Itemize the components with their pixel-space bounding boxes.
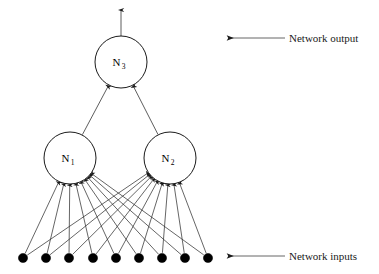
neuron-subscript-n3: 3	[122, 62, 126, 71]
neuron-subscript-n2: 2	[171, 158, 175, 167]
connection-input-1-to-N2	[27, 173, 147, 255]
neuron-label-n1: N	[62, 152, 70, 164]
neuron-group: N3N1N2	[44, 36, 196, 184]
connection-input-6-to-N2	[141, 184, 162, 253]
input-node-6	[134, 253, 143, 262]
neuron-subscript-n1: 1	[71, 158, 75, 167]
neuron-n1: N1	[44, 132, 96, 184]
input-node-1	[18, 253, 27, 262]
input-node-9	[203, 253, 212, 262]
neural-network-diagram: N3N1N2 Network outputNetwork inputs	[0, 0, 379, 274]
annotation-network-output: Network output	[228, 32, 358, 44]
connection-N1-to-N3	[82, 86, 108, 134]
input-node-5	[111, 253, 120, 262]
annotation-network-inputs: Network inputs	[228, 250, 357, 262]
neuron-label-n3: N	[113, 56, 121, 68]
connection-input-8-to-N2	[174, 185, 184, 253]
connection-input-4-to-N2	[96, 180, 153, 254]
connection-input-3-to-N1	[69, 185, 70, 253]
edge-group-hidden-to-output	[82, 86, 158, 134]
input-node-2	[41, 253, 50, 262]
edge-group-inputs-to-hidden	[25, 173, 206, 255]
annotation-label-network-output: Network output	[289, 32, 358, 44]
diagram-canvas: N3N1N2 Network outputNetwork inputs	[0, 0, 379, 274]
connection-input-2-to-N1	[47, 184, 63, 252]
neuron-n2: N2	[144, 132, 196, 184]
connection-input-2-to-N2	[50, 175, 149, 255]
input-node-4	[88, 253, 97, 262]
input-node-8	[180, 253, 189, 262]
neuron-n3: N3	[95, 36, 147, 88]
annotation-label-network-inputs: Network inputs	[289, 250, 357, 262]
connection-input-9-to-N2	[180, 183, 206, 253]
input-node-7	[157, 253, 166, 262]
connection-N2-to-N3	[134, 86, 158, 134]
input-node-3	[64, 253, 73, 262]
neuron-label-n2: N	[162, 152, 170, 164]
annotation-group: Network outputNetwork inputs	[228, 32, 358, 262]
input-node-group	[18, 253, 212, 262]
connection-input-1-to-N1	[25, 183, 58, 254]
